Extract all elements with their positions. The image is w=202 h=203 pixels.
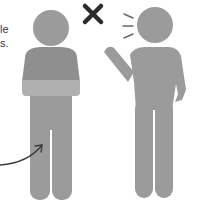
right-person-figure [104,7,186,198]
illustration: le s. [0,0,202,203]
x-mark-icon [85,6,101,22]
figures-svg [0,0,202,203]
left-person-shawl-bottom [22,80,80,96]
right-person-raised-arm [104,47,134,82]
right-person-head [137,7,173,43]
left-person-head [33,10,69,46]
right-person-torso [130,47,186,110]
left-person-figure [22,10,80,200]
right-person-right-leg [155,100,173,198]
right-person-left-leg [135,100,153,198]
sound-lines-icon [123,14,133,38]
left-person-shawl-top [22,47,80,82]
